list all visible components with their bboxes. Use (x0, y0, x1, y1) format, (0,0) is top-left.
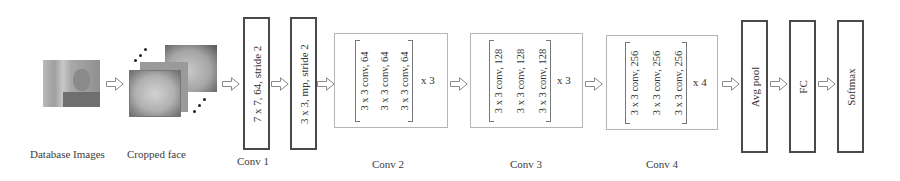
arrow-icon (317, 77, 335, 91)
conv3-repeat: x 3 (557, 74, 571, 86)
conv2-layer: 3 x 3 conv, 64 (357, 42, 371, 120)
ellipsis-dot (134, 59, 137, 62)
conv2-label: Conv 2 (372, 158, 404, 170)
conv4-block: 3 x 3 conv, 256 3 x 3 conv, 256 3 x 3 co… (606, 35, 718, 130)
conv2-layer: 3 x 3 conv, 64 (377, 42, 391, 120)
maxpool-text: 3 x 3, mp, stride 2 (298, 44, 310, 124)
avgpool-text: Avg pool (749, 66, 761, 106)
ellipsis-dot (193, 110, 196, 113)
conv4-label: Conv 4 (646, 158, 678, 170)
database-images-label: Database Images (30, 148, 105, 160)
avgpool-block: Avg pool (741, 20, 768, 153)
conv3-block: 3 x 3 conv, 128 3 x 3 conv, 128 3 x 3 co… (470, 33, 583, 128)
person-head (73, 69, 90, 91)
conv3-layer: 3 x 3 conv, 128 (513, 42, 527, 120)
database-image (43, 60, 100, 107)
conv4-layer: 3 x 3 conv, 256 (649, 44, 663, 122)
fc-block: FC (789, 20, 816, 153)
conv1-text: 7 x 7, 64, stride 2 (251, 45, 263, 122)
person-body (63, 92, 100, 107)
ellipsis-dot (203, 98, 206, 101)
conv2-repeat: x 3 (421, 74, 435, 86)
arrow-icon (271, 77, 289, 91)
conv4-layer: 3 x 3 conv, 256 (627, 44, 641, 122)
maxpool-block: 3 x 3, mp, stride 2 (290, 17, 317, 150)
conv3-layer: 3 x 3 conv, 128 (535, 42, 549, 120)
softmax-text: Softmax (845, 68, 857, 105)
conv1-block: 7 x 7, 64, stride 2 (243, 17, 270, 150)
arrow-icon (222, 77, 240, 91)
softmax-block: Softmax (837, 20, 864, 153)
conv4-layer: 3 x 3 conv, 256 (671, 44, 685, 122)
arrow-icon (722, 77, 740, 91)
arrow-icon (585, 77, 603, 91)
face-image-front (129, 70, 181, 117)
arrow-icon (450, 77, 468, 91)
conv3-layer: 3 x 3 conv, 128 (491, 42, 505, 120)
ellipsis-dot (198, 104, 201, 107)
arrow-icon (106, 77, 124, 91)
fc-text: FC (797, 80, 809, 93)
conv1-label: Conv 1 (237, 155, 269, 167)
arrow-icon (818, 77, 836, 91)
cropped-face-label: Cropped face (127, 148, 186, 160)
conv2-block: 3 x 3 conv, 64 3 x 3 conv, 64 3 x 3 conv… (334, 33, 448, 128)
ellipsis-dot (139, 54, 142, 57)
ellipsis-dot (144, 48, 147, 51)
conv3-label: Conv 3 (510, 158, 542, 170)
conv4-repeat: x 4 (693, 76, 707, 88)
conv2-layer: 3 x 3 conv, 64 (397, 42, 411, 120)
arrow-icon (770, 77, 788, 91)
